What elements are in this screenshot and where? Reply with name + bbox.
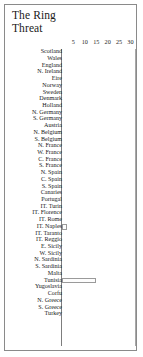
bar-row: IT. Florence — [5, 210, 136, 217]
bar-row: S. Belgium — [5, 136, 136, 143]
bar-row: Malta — [5, 271, 136, 278]
bar-row: Austria — [5, 123, 136, 130]
bar-row: W. Sicily — [5, 251, 136, 258]
bar-row: Denmark — [5, 96, 136, 103]
bar-row: England — [5, 62, 136, 69]
bar-row: Scotland — [5, 49, 136, 56]
bar-row: Wales — [5, 56, 136, 63]
bar-row: S. Greece — [5, 304, 136, 311]
x-axis-tick-10: 10 — [82, 38, 88, 46]
bar-row: Portugal — [5, 197, 136, 204]
x-axis-tick-25: 25 — [116, 38, 122, 46]
bar-row: Canaries — [5, 190, 136, 197]
bar-row: Yugoslavia — [5, 284, 136, 291]
chart-window: The Ring Threat 51015202530 ScotlandWale… — [4, 4, 137, 351]
bar-row: E. Sicily — [5, 244, 136, 251]
bar-row: IT. Taranto — [5, 230, 136, 237]
page-title: The Ring Threat — [12, 9, 102, 35]
bar-row: S. Sardinia — [5, 264, 136, 271]
bar-row: W. France — [5, 150, 136, 157]
page-title-line-2: Threat — [12, 22, 102, 35]
bar-row: IT. Rome — [5, 217, 136, 224]
x-axis-tick-5: 5 — [72, 38, 75, 46]
x-axis-tick-15: 15 — [93, 38, 99, 46]
x-axis-tick-labels: 51015202530 — [5, 38, 136, 49]
x-axis-tick-30: 30 — [127, 38, 133, 46]
bar-row: Norway — [5, 83, 136, 90]
bar-row: Tunisia — [5, 277, 136, 284]
bar-row: IT. Naples — [5, 224, 136, 231]
bar-row: Sweden — [5, 89, 136, 96]
bar-row: S. Spain — [5, 183, 136, 190]
bar-row: Eire — [5, 76, 136, 83]
bar-row: S. Germany — [5, 116, 136, 123]
page-title-line-1: The Ring — [12, 9, 102, 22]
bar-row: Holland — [5, 103, 136, 110]
bar-category-label: Turkey — [45, 310, 62, 317]
bar-row: IT. Reggio — [5, 237, 136, 244]
bar-row: IT. Turin — [5, 204, 136, 211]
bar-row: N. Greece — [5, 298, 136, 305]
bar-rows: ScotlandWalesEnglandN. IrelandEireNorway… — [5, 49, 136, 346]
bar-row: C. France — [5, 157, 136, 164]
bar-value — [62, 278, 96, 283]
bar-value — [62, 224, 67, 229]
bar-chart: 51015202530 ScotlandWalesEnglandN. Irela… — [5, 38, 136, 350]
bar-row: N. Spain — [5, 170, 136, 177]
bar-row: N. Ireland — [5, 69, 136, 76]
bar-row: Corfu — [5, 291, 136, 298]
x-axis-tick-20: 20 — [105, 38, 111, 46]
bar-row: Turkey — [5, 311, 136, 318]
bar-row: S. France — [5, 163, 136, 170]
bar-row: N. Sardinia — [5, 257, 136, 264]
bar-row: N. Germany — [5, 109, 136, 116]
bar-row: C. Spain — [5, 177, 136, 184]
bar-row: N. France — [5, 143, 136, 150]
bar-row: N. Belgium — [5, 130, 136, 137]
